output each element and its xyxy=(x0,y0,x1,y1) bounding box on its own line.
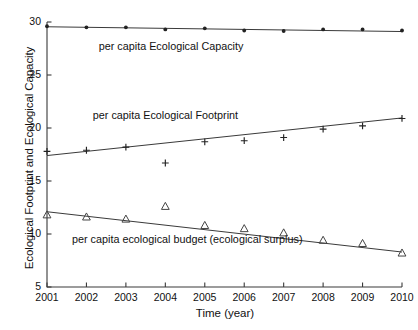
y-tick-label: 25 xyxy=(13,68,41,80)
x-tick-label: 2003 xyxy=(104,291,148,303)
x-tick-label: 2006 xyxy=(222,291,266,303)
series-annotation: per capita ecological budget (ecological… xyxy=(72,233,302,245)
trend-lines xyxy=(47,27,402,252)
series-annotation: per capita Ecological Capacity xyxy=(99,40,244,52)
series-annotation: per capita Ecological Footprint xyxy=(93,109,238,121)
y-tick-label: 15 xyxy=(13,174,41,186)
x-tick-label: 2009 xyxy=(341,291,385,303)
x-axis-title: Time (year) xyxy=(47,307,403,319)
y-tick-label: 10 xyxy=(13,227,41,239)
axes-spines xyxy=(47,22,402,287)
x-tick-label: 2010 xyxy=(380,291,418,303)
y-tick-label: 20 xyxy=(13,121,41,133)
x-tick-label: 2005 xyxy=(183,291,227,303)
x-tick-label: 2001 xyxy=(25,291,69,303)
x-tick-label: 2008 xyxy=(301,291,345,303)
y-tick-label: 30 xyxy=(13,15,41,27)
axis-ticks xyxy=(47,22,402,287)
x-tick-label: 2007 xyxy=(262,291,306,303)
data-points xyxy=(43,24,406,256)
x-tick-label: 2004 xyxy=(143,291,187,303)
x-tick-label: 2002 xyxy=(64,291,108,303)
